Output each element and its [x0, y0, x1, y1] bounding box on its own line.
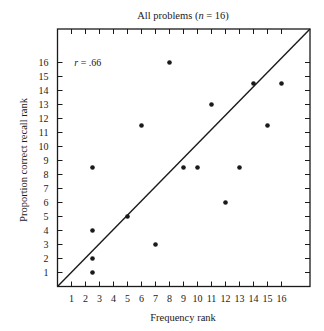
y-tick-label: 16 — [39, 57, 49, 68]
y-tick-label: 1 — [44, 267, 49, 278]
data-point — [265, 123, 270, 128]
y-tick-label: 15 — [39, 71, 49, 82]
x-tick-label: 15 — [263, 293, 273, 304]
x-tick-label: 11 — [207, 293, 217, 304]
x-tick-label: 10 — [193, 293, 203, 304]
data-point — [90, 228, 95, 233]
y-tick-label: 6 — [44, 197, 49, 208]
x-tick-label: 2 — [83, 293, 88, 304]
data-point — [90, 270, 95, 275]
x-tick-label: 7 — [153, 293, 158, 304]
x-tick-label: 1 — [69, 293, 74, 304]
data-point — [195, 165, 200, 170]
x-tick-label: 9 — [181, 293, 186, 304]
data-point — [167, 60, 172, 65]
y-tick-label: 14 — [39, 85, 49, 96]
data-point — [90, 165, 95, 170]
data-point — [251, 81, 256, 86]
y-tick-label: 3 — [44, 239, 49, 250]
data-point — [90, 256, 95, 261]
chart-canvas: All problems (n = 16) 123456789101112131… — [0, 0, 324, 331]
scatter-chart: All problems (n = 16) 123456789101112131… — [0, 0, 324, 331]
y-tick-label: 4 — [44, 225, 49, 236]
y-axis-label: Proportion correct recall rank — [18, 97, 29, 222]
y-tick-label: 5 — [44, 211, 49, 222]
plot-area: 1234567891011121314151612345678910111213… — [39, 29, 311, 304]
data-point — [223, 200, 228, 205]
data-point — [125, 214, 130, 219]
data-point — [139, 123, 144, 128]
y-tick-label: 11 — [39, 127, 49, 138]
correlation-annotation: r = .66 — [74, 57, 101, 68]
x-tick-label: 6 — [139, 293, 144, 304]
y-tick-label: 2 — [44, 253, 49, 264]
chart-title: All problems (n = 16) — [137, 10, 229, 22]
y-tick-label: 13 — [39, 99, 49, 110]
data-point — [181, 165, 186, 170]
x-tick-label: 5 — [125, 293, 130, 304]
data-point — [153, 242, 158, 247]
x-tick-label: 16 — [277, 293, 287, 304]
x-tick-label: 4 — [111, 293, 116, 304]
x-tick-label: 8 — [167, 293, 172, 304]
x-tick-label: 3 — [97, 293, 102, 304]
y-tick-label: 10 — [39, 141, 49, 152]
data-point — [237, 165, 242, 170]
y-tick-label: 9 — [44, 155, 49, 166]
x-tick-label: 13 — [235, 293, 245, 304]
x-axis-label: Frequency rank — [150, 312, 216, 323]
data-point — [279, 81, 284, 86]
y-tick-label: 8 — [44, 169, 49, 180]
data-point — [209, 102, 214, 107]
y-tick-label: 7 — [44, 183, 49, 194]
x-tick-label: 12 — [221, 293, 231, 304]
y-tick-label: 12 — [39, 113, 49, 124]
x-tick-label: 14 — [249, 293, 259, 304]
